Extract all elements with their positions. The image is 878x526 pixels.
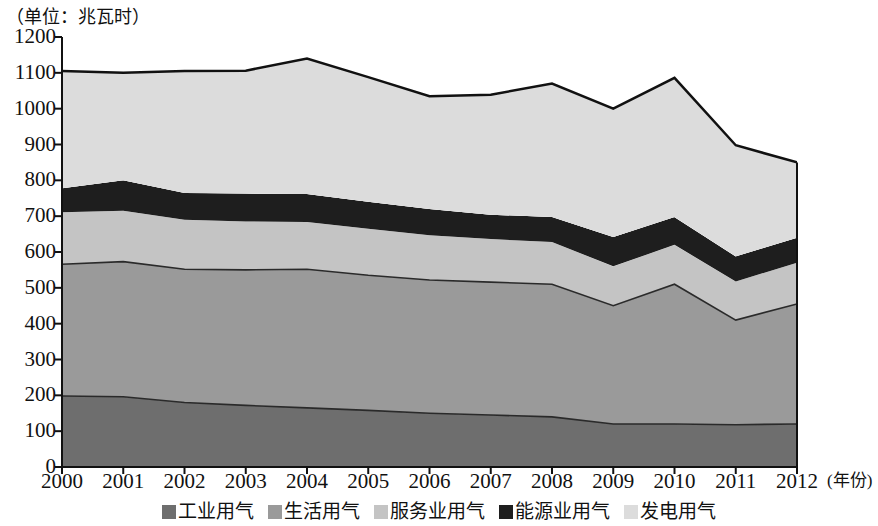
- x-tick-label: 2002: [164, 470, 206, 492]
- legend-swatch-icon: [374, 505, 388, 519]
- legend-swatch-icon: [268, 505, 282, 519]
- legend-item-label: 生活用气: [284, 502, 360, 522]
- x-tick-label: 2012: [776, 470, 818, 492]
- legend-item-label: 发电用气: [640, 502, 716, 522]
- x-tick-label: 2007: [470, 470, 512, 492]
- x-tick-label: 2005: [347, 470, 389, 492]
- x-axis-tick-labels: 2000200120022003200420052006200720082009…: [0, 470, 878, 498]
- legend-item[interactable]: 发电用气: [624, 502, 716, 522]
- legend-swatch-icon: [499, 505, 513, 519]
- x-tick-label: 2000: [41, 470, 83, 492]
- area-series-group: [62, 59, 797, 468]
- x-tick-label: 2008: [531, 470, 573, 492]
- legend-swatch-icon: [162, 505, 176, 519]
- stacked-area-chart: （单位：兆瓦时） 0100200300400500600700800900100…: [0, 0, 878, 526]
- legend-swatch-icon: [624, 505, 638, 519]
- y-tick-marks: [55, 37, 62, 467]
- plot-area: [0, 0, 878, 526]
- legend-item[interactable]: 能源业用气: [499, 502, 610, 522]
- x-tick-label: 2001: [102, 470, 144, 492]
- legend-item-label: 能源业用气: [515, 502, 610, 522]
- x-tick-label: 2006: [409, 470, 451, 492]
- legend-item-label: 工业用气: [178, 502, 254, 522]
- legend-item-label: 服务业用气: [390, 502, 485, 522]
- legend-item[interactable]: 生活用气: [268, 502, 360, 522]
- x-axis-title: (年份): [827, 470, 872, 492]
- x-tick-label: 2009: [592, 470, 634, 492]
- x-tick-label: 2003: [225, 470, 267, 492]
- x-tick-label: 2004: [286, 470, 328, 492]
- x-tick-label: 2011: [715, 470, 756, 492]
- chart-legend: 工业用气生活用气服务业用气能源业用气发电用气: [0, 498, 878, 526]
- legend-item[interactable]: 服务业用气: [374, 502, 485, 522]
- x-tick-label: 2010: [654, 470, 696, 492]
- legend-item[interactable]: 工业用气: [162, 502, 254, 522]
